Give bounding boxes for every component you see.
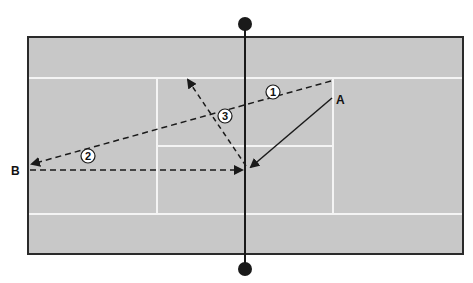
shot-2-badge: 2 [81,149,95,163]
shot-1-number: 1 [270,86,276,98]
player-a-label: A [336,93,345,107]
net-post-top [238,17,252,31]
net-post-bottom [238,262,252,276]
shot-2-number: 2 [85,150,91,162]
shot-3-number: 3 [222,110,228,122]
tennis-court-diagram: 1 2 3 A B [0,0,473,283]
shot-1-badge: 1 [266,85,280,99]
player-b-label: B [11,164,20,178]
shot-3-badge: 3 [218,109,232,123]
